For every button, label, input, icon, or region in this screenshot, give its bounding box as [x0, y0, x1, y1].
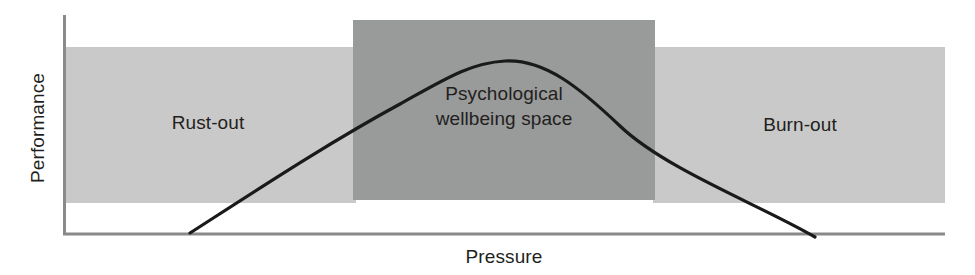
performance-curve: [0, 0, 975, 275]
pressure-performance-chart: Rust-out Psychological wellbeing space B…: [0, 0, 975, 275]
curve-path: [190, 61, 815, 237]
